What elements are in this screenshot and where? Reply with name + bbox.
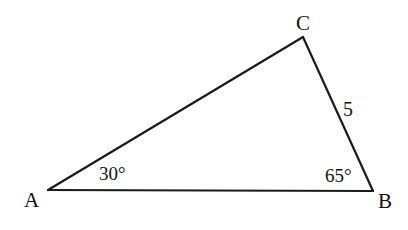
angle-label-b: 65°	[325, 165, 352, 186]
side-ac	[48, 37, 303, 190]
side-label-bc: 5	[343, 98, 353, 120]
angle-label-a: 30°	[99, 163, 126, 184]
vertex-label-a: A	[24, 188, 40, 212]
side-ab	[48, 190, 373, 191]
vertex-label-c: C	[296, 11, 310, 35]
vertex-label-b: B	[378, 189, 392, 213]
triangle-diagram: A B C 30° 65° 5	[0, 0, 408, 230]
